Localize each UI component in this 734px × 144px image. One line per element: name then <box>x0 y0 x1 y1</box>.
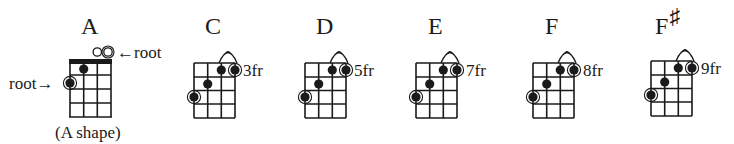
chord-diagram-f-sharp <box>0 0 734 144</box>
fret-position-label: 9fr <box>701 60 721 77</box>
chord-f-sharp: F♯ 9fr <box>0 0 734 144</box>
